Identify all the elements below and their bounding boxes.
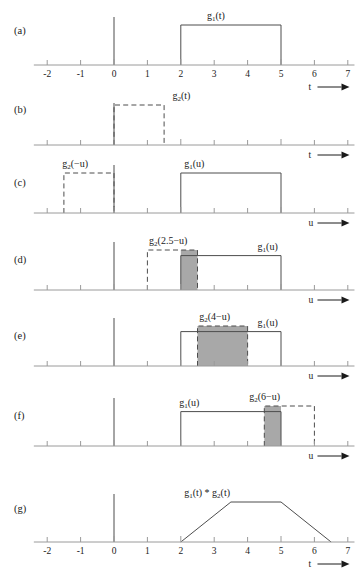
signal-g1-u — [181, 173, 281, 213]
axis-tick-label-a-6: 6 — [312, 69, 317, 79]
axis-tick-label-g--2: -2 — [43, 546, 51, 556]
panel-c: (c)g2(−u)g1(u)u — [14, 158, 354, 228]
panel-a: (a)g1(t)-2-101234567t — [14, 10, 354, 92]
signal-label-g2-2p5-minus-u: g2(2.5−u) — [149, 235, 187, 248]
axis-tick-label-a-0: 0 — [112, 69, 117, 79]
panel-label-g: (g) — [14, 503, 27, 515]
axis-tick-label-a-4: 4 — [245, 69, 250, 79]
signal-g2-minus-u — [64, 173, 114, 213]
axis-tick-label-a-7: 7 — [345, 69, 350, 79]
axis-arrow-head-a — [341, 83, 349, 90]
panel-label-e: (e) — [14, 330, 26, 342]
signal-label-g2-t: g2(t) — [172, 90, 190, 103]
panel-d: (d)g2(2.5−u)g1(u)u — [14, 235, 354, 305]
axis-arrow-head-c — [341, 219, 349, 226]
axis-tick-label-a--2: -2 — [43, 69, 51, 79]
signal-label-g1-u: g1(u) — [258, 241, 278, 254]
axis-tick-label-g-0: 0 — [112, 546, 117, 556]
axis-arrow-head-f — [341, 452, 349, 459]
signal-label-g1-conv-g2: g1(t) * g2(t) — [184, 487, 230, 500]
figure-canvas: (a)g1(t)-2-101234567t(b)g2(t)t(c)g2(−u)g… — [0, 0, 363, 588]
panel-label-b: (b) — [14, 104, 27, 116]
signal-label-g2-minus-u: g2(−u) — [62, 158, 88, 171]
signal-label-g2-4-minus-u: g2(4−u) — [199, 311, 230, 324]
axis-variable-a: t — [308, 82, 311, 92]
signal-label-g1-t: g1(t) — [207, 10, 225, 23]
panel-label-f: (f) — [14, 410, 25, 422]
axis-tick-label-g-1: 1 — [145, 546, 150, 556]
axis-tick-label-g-4: 4 — [245, 546, 250, 556]
axis-variable-b: t — [308, 150, 311, 160]
panel-label-d: (d) — [14, 254, 27, 266]
signal-label-g1-u: g1(u) — [184, 158, 204, 171]
axis-tick-label-g-6: 6 — [312, 546, 317, 556]
panel-label-c: (c) — [14, 177, 26, 189]
axis-tick-label-a-3: 3 — [212, 69, 217, 79]
signal-label-g1-u: g1(u) — [258, 317, 278, 330]
axis-variable-f: u — [308, 451, 313, 461]
signal-label-g2-6-minus-u: g2(6−u) — [249, 391, 280, 404]
signal-g1-t — [181, 25, 281, 65]
axis-tick-label-a-2: 2 — [178, 69, 183, 79]
axis-variable-g: t — [308, 559, 311, 569]
axis-tick-label-a--1: -1 — [77, 69, 85, 79]
convolution-figure: (a)g1(t)-2-101234567t(b)g2(t)t(c)g2(−u)g… — [0, 0, 363, 588]
axis-tick-label-g-7: 7 — [345, 546, 350, 556]
axis-tick-label-g-3: 3 — [212, 546, 217, 556]
axis-arrow-head-b — [341, 151, 349, 158]
panel-f: (f)g2(6−u)g1(u)u — [14, 391, 354, 461]
panel-g: (g)g1(t) * g2(t)-2-101234567t — [14, 487, 354, 569]
panel-label-a: (a) — [14, 25, 26, 37]
axis-variable-d: u — [308, 295, 313, 305]
axis-arrow-head-d — [341, 296, 349, 303]
panel-b: (b)g2(t)t — [14, 90, 354, 160]
signal-g2-t — [114, 105, 164, 145]
signal-label-g1-u: g1(u) — [179, 397, 199, 410]
axis-variable-c: u — [308, 218, 313, 228]
axis-tick-label-g-5: 5 — [279, 546, 284, 556]
signal-g1-conv-g2 — [181, 502, 331, 542]
axis-arrow-head-g — [341, 560, 349, 567]
axis-tick-label-g--1: -1 — [77, 546, 85, 556]
axis-tick-label-a-1: 1 — [145, 69, 150, 79]
axis-tick-label-a-5: 5 — [279, 69, 284, 79]
axis-arrow-head-e — [341, 372, 349, 379]
axis-variable-e: u — [308, 371, 313, 381]
axis-tick-label-g-2: 2 — [178, 546, 183, 556]
panel-e: (e)g2(4−u)g1(u)u — [14, 311, 354, 381]
